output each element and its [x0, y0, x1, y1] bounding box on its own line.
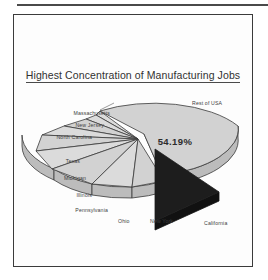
label-rest-of-usa: Rest of USA	[192, 100, 222, 106]
label-michigan: Michigan	[14, 175, 86, 181]
label-ohio: Ohio	[118, 218, 130, 224]
data-label-rest-of-usa: 54.19%	[147, 136, 203, 147]
label-new-jersey: New Jersey	[22, 122, 104, 128]
label-new-york: New York	[150, 218, 173, 224]
pie-graphic: .sl { fill:#d2d2d2; stroke:#3a3a3a; stro…	[14, 15, 254, 268]
figure-frame: Highest Concentration of Manufacturing J…	[13, 14, 253, 267]
label-north-carolina: North Carolina	[14, 134, 92, 140]
label-pennsylvania: Pennsylvania	[18, 207, 108, 213]
label-california: California	[204, 220, 227, 226]
label-texas: Texas	[14, 158, 80, 164]
label-massachusetts: Massachusetts	[22, 110, 110, 116]
pie-chart: Highest Concentration of Manufacturing J…	[14, 15, 252, 266]
label-illinois: Illinois	[18, 192, 92, 198]
top-divider-rule	[17, 4, 268, 6]
